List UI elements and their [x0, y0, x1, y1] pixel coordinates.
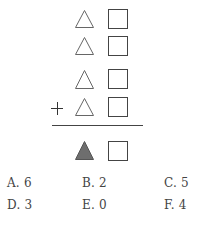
triangle-outline-icon [76, 11, 94, 28]
option-d[interactable]: D. 3 [7, 198, 32, 212]
square-outline-icon [109, 10, 128, 29]
option-e[interactable]: E. 0 [82, 198, 107, 212]
square-outline-icon [109, 70, 128, 89]
triangle-outline-icon [76, 71, 94, 89]
option-f[interactable]: F. 4 [164, 198, 187, 212]
addition-puzzle-figure [0, 0, 205, 170]
triangle-filled-icon [76, 142, 94, 160]
square-outline-icon [109, 37, 128, 56]
plus-sign-icon [51, 102, 63, 115]
triangle-outline-icon [76, 99, 94, 116]
option-a[interactable]: A. 6 [7, 176, 32, 190]
square-outline-icon [109, 98, 128, 117]
square-outline-icon [109, 142, 128, 161]
option-b[interactable]: B. 2 [82, 176, 107, 190]
triangle-outline-icon [76, 38, 94, 55]
option-c[interactable]: C. 5 [164, 176, 189, 190]
